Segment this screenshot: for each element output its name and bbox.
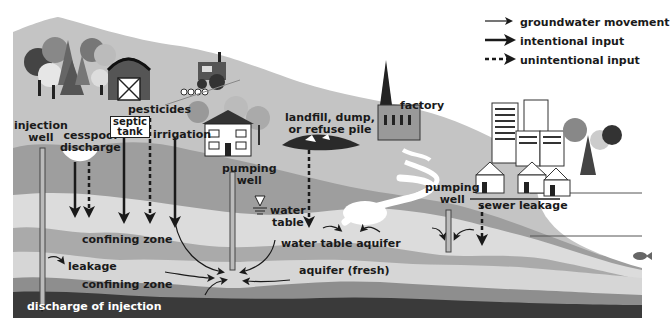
label-confining-zone-upper: confining zone xyxy=(82,234,172,246)
label-line: well xyxy=(222,175,277,187)
legend: groundwater movement intentional input u… xyxy=(480,14,666,71)
label-pumping-well-right: pumping well xyxy=(425,182,480,206)
label-irrigation: irrigation xyxy=(153,129,211,141)
label-line: or refuse pile xyxy=(285,124,375,136)
label-factory: factory xyxy=(400,100,444,112)
pumping-well-right-pipe xyxy=(446,210,451,252)
legend-item-groundwater-movement: groundwater movement xyxy=(480,14,666,33)
legend-label: unintentional input xyxy=(520,54,640,67)
legend-item-intentional-input: intentional input xyxy=(480,33,666,52)
legend-label: intentional input xyxy=(520,35,624,48)
legend-label: groundwater movement xyxy=(520,16,670,29)
label-sewer-leakage: sewer leakage xyxy=(478,200,568,212)
river-pond xyxy=(343,201,387,225)
label-line: tank xyxy=(113,127,147,137)
label-aquifer-fresh: aquifer (fresh) xyxy=(299,265,390,277)
label-water-table-aquifer: water table aquifer xyxy=(281,238,401,250)
fish xyxy=(633,252,652,260)
label-confining-zone-lower: confining zone xyxy=(82,279,172,291)
label-water-table: water table xyxy=(270,205,306,229)
label-discharge-of-injection: discharge of injection xyxy=(27,301,162,313)
barn xyxy=(108,58,150,101)
label-line: well xyxy=(425,194,480,206)
label-pesticides: pesticides xyxy=(128,104,191,116)
label-landfill: landfill, dump, or refuse pile xyxy=(285,112,375,136)
label-line: discharge xyxy=(60,142,121,154)
label-line: table xyxy=(270,217,306,229)
legend-item-unintentional-input: unintentional input xyxy=(480,52,666,71)
label-leakage: leakage xyxy=(68,261,117,273)
label-septic-tank: septic tank xyxy=(110,116,150,138)
label-pumping-well-left: pumping well xyxy=(222,163,277,187)
